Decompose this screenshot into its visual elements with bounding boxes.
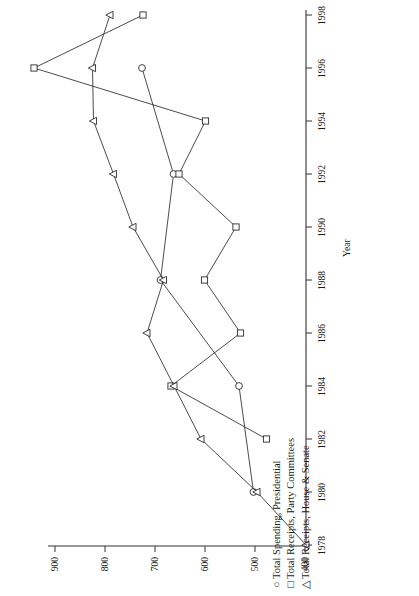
- value-tick-label: 900: [50, 557, 60, 572]
- data-point-marker: [88, 64, 95, 71]
- year-tick-label: 1990: [317, 218, 327, 237]
- data-point-marker: [237, 330, 243, 336]
- value-tick-label: 600: [200, 557, 210, 572]
- data-point-marker: [140, 12, 146, 18]
- year-tick-label: 1996: [317, 59, 327, 78]
- data-point-marker: [202, 118, 208, 124]
- legend-label: Total Spending, Presidential: [271, 460, 282, 579]
- x-axis-title: Year: [342, 239, 352, 257]
- legend-label: Total Receipts, House & Senate: [300, 445, 311, 579]
- data-point-marker: [197, 435, 204, 442]
- data-point-marker: [236, 383, 243, 390]
- year-tick-label: 1998: [317, 6, 327, 25]
- data-point-marker: [233, 224, 239, 230]
- data-point-marker: [263, 436, 269, 442]
- data-point-marker: [139, 65, 146, 72]
- legend-entry-1: □Total Receipts, Party Committees: [285, 438, 296, 590]
- year-tick-label: 1986: [317, 324, 327, 343]
- chart-canvas: 9008007006005004001978198019821984198619…: [0, 0, 419, 596]
- data-point-marker: [31, 65, 37, 71]
- data-point-marker: [201, 277, 207, 283]
- legend-marker-icon: △: [299, 579, 311, 590]
- data-point-marker: [176, 171, 182, 177]
- series-circle: [139, 65, 257, 496]
- year-tick-label: 1984: [317, 377, 327, 396]
- legend-entry-0: ○Total Spending, Presidential: [271, 460, 282, 590]
- year-tick-label: 1992: [317, 165, 327, 184]
- data-point-marker: [89, 117, 96, 124]
- year-tick-label: 1988: [317, 271, 327, 290]
- value-tick-label: 800: [100, 557, 110, 572]
- chart-legend: ○Total Spending, Presidential□Total Rece…: [257, 444, 417, 594]
- value-tick-label: 700: [150, 557, 160, 572]
- data-point-marker: [143, 329, 150, 336]
- series-square: [31, 12, 270, 442]
- legend-label: Total Receipts, Party Committees: [285, 438, 296, 579]
- legend-marker-icon: ○: [271, 579, 282, 590]
- year-tick-label: 1994: [317, 112, 327, 131]
- legend-entry-2: △Total Receipts, House & Senate: [299, 445, 311, 590]
- legend-marker-icon: □: [285, 579, 296, 590]
